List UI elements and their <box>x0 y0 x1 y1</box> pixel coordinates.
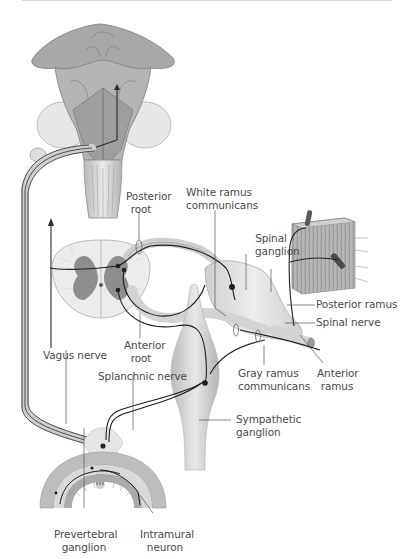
label-anterior-ramus: Anterior ramus <box>317 367 357 392</box>
diagram-canvas <box>0 0 403 559</box>
brainstem-illustration <box>30 24 174 218</box>
muscle-tissue-block <box>292 210 368 294</box>
label-intramural-neuron: Intramural neuron <box>140 528 190 553</box>
gut-wall-section <box>40 452 166 508</box>
label-posterior-ramus: Posterior ramus <box>316 298 397 311</box>
label-splanchnic-nerve: Splanchnic nerve <box>98 370 187 383</box>
label-sympathetic-ganglion: Sympathetic ganglion <box>236 413 301 438</box>
label-vagus-nerve: Vagus nerve <box>43 349 107 362</box>
spinal-ganglion-and-nerve <box>128 242 314 348</box>
label-white-ramus-communicans: White ramus communicans <box>186 186 242 211</box>
label-gray-ramus-communicans: Gray ramus communicans <box>238 367 294 392</box>
label-posterior-root: Posterior root <box>126 190 156 215</box>
label-spinal-nerve: Spinal nerve <box>316 316 381 329</box>
label-prevertebral-ganglion: Prevertebral ganglion <box>54 528 114 553</box>
ascending-arrow <box>48 218 54 348</box>
label-spinal-ganglion: Spinal ganglion <box>255 232 287 257</box>
label-anterior-root: Anterior root <box>124 339 158 364</box>
